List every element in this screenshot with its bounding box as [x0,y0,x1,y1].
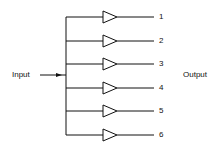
buffer-triangle-icon [103,58,117,70]
buffer-row-3 [66,58,154,70]
buffer-row-1 [66,11,154,23]
output-number-1: 1 [159,13,163,21]
buffer-row-2 [66,35,154,47]
output-number-6: 6 [159,131,163,139]
buffer-triangle-icon [103,11,117,23]
buffer-row-5 [66,105,154,117]
buffer-triangle-icon [103,35,117,47]
output-number-4: 4 [159,84,163,92]
output-number-5: 5 [159,107,163,115]
output-number-2: 2 [159,37,163,45]
input-label: Input [12,71,30,79]
buffer-triangle-icon [103,82,117,94]
buffer-row-6 [66,129,154,141]
buffer-triangle-icon [103,129,117,141]
buffer-triangle-icon [103,105,117,117]
buffer-row-4 [66,82,154,94]
output-number-3: 3 [159,60,163,68]
input-arrow-icon [56,73,62,77]
output-label: Output [183,71,207,79]
